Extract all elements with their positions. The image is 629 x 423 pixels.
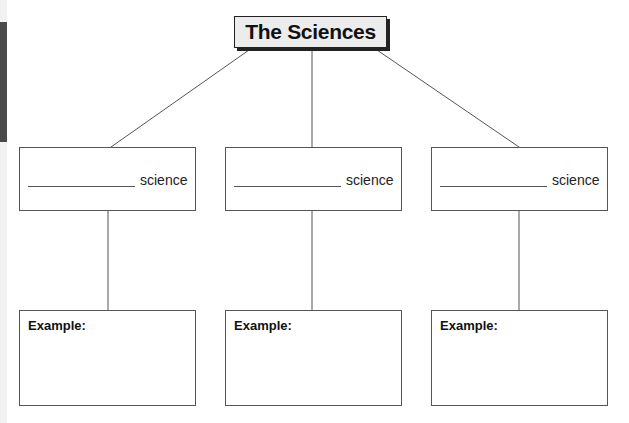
science-label-1: science <box>140 172 187 188</box>
example-box-3[interactable]: Example: <box>431 310 608 406</box>
title-box: The Sciences <box>234 16 387 48</box>
example-box-2[interactable]: Example: <box>225 310 402 406</box>
example-label-1: Example: <box>28 318 86 333</box>
example-label-2: Example: <box>234 318 292 333</box>
example-box-1[interactable]: Example: <box>19 310 196 406</box>
fill-in-blank-1[interactable] <box>28 186 135 187</box>
diagram-title: The Sciences <box>245 20 376 44</box>
fill-in-blank-2[interactable] <box>234 186 341 187</box>
example-label-3: Example: <box>440 318 498 333</box>
science-box-1: science <box>19 147 196 211</box>
science-box-2: science <box>225 147 402 211</box>
fill-in-blank-3[interactable] <box>440 186 547 187</box>
science-label-3: science <box>552 172 599 188</box>
science-label-2: science <box>346 172 393 188</box>
connector-right <box>377 50 519 147</box>
science-box-3: science <box>431 147 608 211</box>
connector-left <box>111 50 249 147</box>
